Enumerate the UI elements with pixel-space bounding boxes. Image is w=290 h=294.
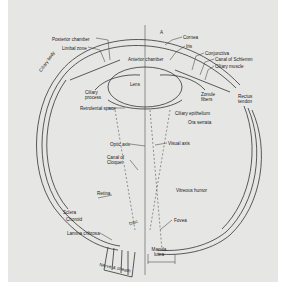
label-ora-serrata: Ora serrata	[188, 120, 211, 125]
label-iris: Iris	[186, 44, 192, 49]
label-cornea: Cornea	[183, 35, 198, 40]
label-optic-axis: Optic axis	[110, 142, 130, 147]
label-zonule-fibers: Zonule fibers	[201, 92, 221, 102]
label-axis-marker: A	[160, 30, 163, 35]
label-fovea: Fovea	[174, 218, 187, 223]
eye-cross-section-diagram	[0, 0, 290, 294]
label-posterior-chamber: Posterior chamber	[52, 37, 90, 42]
label-vitreous-humor: Vitreous humor	[176, 188, 207, 193]
label-canal-of-schlemm: Canal of Schlemm	[215, 57, 253, 62]
label-retrolental-space: Retrolental space	[80, 106, 116, 111]
label-lamina-cribrosa: Lamina cribrosa	[67, 231, 100, 236]
label-retina: Retina	[97, 191, 110, 196]
label-anterior-chamber: Anterior chamber	[128, 57, 163, 62]
label-ciliary-muscle: Ciliary muscle	[215, 64, 244, 69]
label-macula-lutea: Macula lutea	[150, 247, 168, 257]
label-rectus-tendon: Rectus tendon	[238, 94, 258, 104]
label-ciliary-epithelium: Ciliary epithelium	[175, 111, 210, 116]
label-visual-axis: Visual axis	[168, 141, 190, 146]
label-canal-of-cloquet: Canal of Cloquet	[107, 155, 127, 165]
sclera-outline	[37, 75, 119, 250]
label-limbal-zone: Limbal zone	[62, 46, 87, 51]
label-choroid: Choroid	[66, 217, 82, 222]
label-ciliary-process: Ciliary process	[85, 90, 107, 100]
label-conjunctiva: Conjunctiva	[205, 51, 229, 56]
label-sclera: Sclera	[63, 210, 76, 215]
label-lens: Lens	[130, 82, 140, 87]
